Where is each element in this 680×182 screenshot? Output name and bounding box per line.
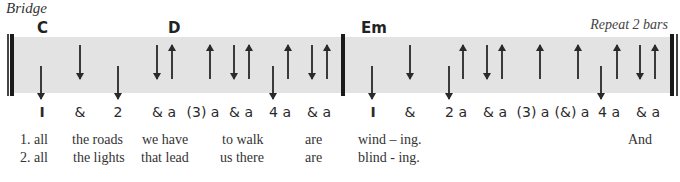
down-strum-arrow-icon [371, 66, 373, 99]
down-strum-arrow-icon [79, 45, 81, 79]
beat-count: & [75, 104, 86, 120]
up-strum-arrow-icon [616, 45, 618, 79]
down-strum-arrow-icon [486, 45, 488, 79]
beat-count: I [39, 104, 44, 120]
lyric-word: the lights [73, 150, 125, 166]
down-strum-arrow-icon [272, 66, 274, 99]
up-strum-arrow-icon [287, 45, 289, 79]
beat-count: & [405, 104, 416, 120]
up-strum-arrow-icon [539, 45, 541, 79]
beat-count: 2 a [445, 104, 467, 120]
chord-label: D [168, 19, 180, 37]
lyric-word: the roads [72, 132, 123, 148]
beat-count: & a [636, 104, 660, 120]
down-strum-arrow-icon [409, 45, 411, 79]
lyric-word: are [305, 132, 322, 148]
lyric-word: blind - ing. [358, 150, 420, 166]
section-label: Bridge [6, 0, 47, 17]
beat-count: 2 [114, 104, 123, 120]
down-strum-arrow-icon [233, 45, 235, 79]
beat-count: (3) a [187, 104, 220, 120]
end-barline-thin [676, 34, 678, 96]
lyric-word: we have [142, 132, 188, 148]
lyric-word: to walk [222, 132, 264, 148]
up-strum-arrow-icon [171, 45, 173, 79]
beat-count: & a [483, 104, 507, 120]
beat-count: (&) a [555, 104, 590, 120]
beat-count: 4 a [598, 104, 620, 120]
down-strum-arrow-icon [448, 66, 450, 99]
up-strum-arrow-icon [577, 45, 579, 79]
lyric-word: wind – ing. [358, 132, 421, 148]
beat-count: & a [307, 104, 331, 120]
middle-barline [341, 34, 345, 96]
up-strum-arrow-icon [209, 45, 211, 79]
up-strum-arrow-icon [326, 45, 328, 79]
beat-count: 4 a [269, 104, 291, 120]
up-strum-arrow-icon [248, 45, 250, 79]
lyric-word: that lead [141, 150, 189, 166]
chord-label: C [37, 19, 48, 37]
down-strum-arrow-icon [40, 66, 42, 99]
start-barline-thick [10, 34, 14, 96]
start-barline-thin [7, 34, 9, 96]
beat-count: & a [229, 104, 253, 120]
down-strum-arrow-icon [600, 66, 602, 99]
up-strum-arrow-icon [462, 45, 464, 79]
down-strum-arrow-icon [117, 66, 119, 99]
beat-count: I [370, 104, 375, 120]
lyric-word: And [628, 132, 652, 148]
lyric-word: 1. all [20, 132, 48, 148]
beat-count: (3) a [517, 104, 550, 120]
down-strum-arrow-icon [156, 45, 158, 79]
lyric-word: are [305, 150, 322, 166]
up-strum-arrow-icon [654, 45, 656, 79]
up-strum-arrow-icon [501, 45, 503, 79]
end-barline-thick [670, 34, 674, 96]
repeat-note: Repeat 2 bars [590, 17, 668, 33]
lyric-word: us there [220, 150, 264, 166]
beat-count: & a [152, 104, 176, 120]
chord-label: Em [361, 19, 387, 37]
down-strum-arrow-icon [639, 45, 641, 79]
lyric-word: 2. all [20, 150, 48, 166]
down-strum-arrow-icon [311, 45, 313, 79]
